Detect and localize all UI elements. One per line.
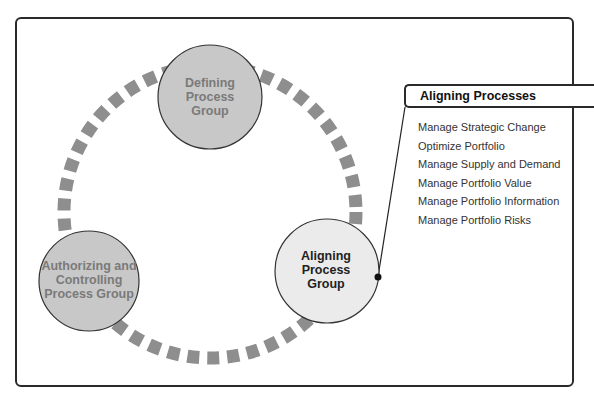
- label-line: Group: [301, 277, 351, 291]
- label-line: Aligning: [301, 249, 351, 263]
- list-item: Manage Portfolio Risks: [418, 211, 560, 230]
- callout-dot: [375, 274, 382, 281]
- aligning-processes-list: Manage Strategic Change Optimize Portfol…: [418, 118, 560, 229]
- list-item: Optimize Portfolio: [418, 137, 560, 156]
- label-line: Process: [185, 90, 235, 104]
- list-item: Manage Portfolio Information: [418, 192, 560, 211]
- label-line: Process Group: [41, 287, 136, 301]
- node-aligning-label: Aligning Process Group: [301, 249, 351, 291]
- list-item: Manage Supply and Demand: [418, 155, 560, 174]
- panel-title: Aligning Processes: [420, 89, 536, 103]
- label-line: Controlling: [41, 273, 136, 287]
- list-item: Manage Portfolio Value: [418, 174, 560, 193]
- node-authorizing-label: Authorizing and Controlling Process Grou…: [41, 259, 136, 301]
- aligning-processes-header: Aligning Processes: [404, 84, 594, 108]
- callout-line: [378, 107, 405, 277]
- label-line: Authorizing and: [41, 259, 136, 273]
- list-item: Manage Strategic Change: [418, 118, 560, 137]
- node-defining-label: Defining Process Group: [185, 76, 235, 118]
- label-line: Group: [185, 104, 235, 118]
- label-line: Defining: [185, 76, 235, 90]
- label-line: Process: [301, 263, 351, 277]
